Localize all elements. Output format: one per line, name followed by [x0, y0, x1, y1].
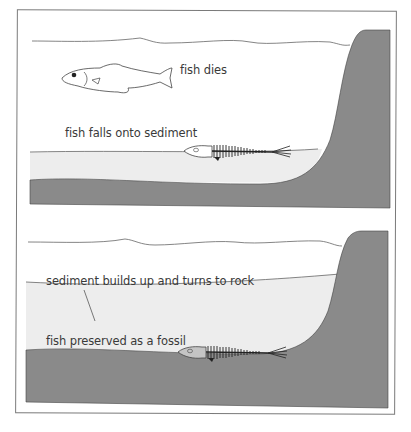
water-surface: [28, 239, 342, 246]
panel-1-illustration: [0, 0, 411, 216]
label-fish-dies: fish dies: [180, 63, 227, 77]
label-fish-falls: fish falls onto sediment: [65, 126, 197, 140]
label-sediment-builds: sediment builds up and turns to rock: [46, 274, 254, 288]
label-fish-preserved: fish preserved as a fossil: [46, 334, 186, 348]
panel-2-illustration: [0, 216, 411, 432]
fish-alive-icon: [62, 64, 172, 93]
water-surface: [32, 38, 350, 45]
panel-fish-preserved: sediment builds up and turns to rock fis…: [0, 216, 411, 432]
panel-fish-dies: fish dies fish falls onto sediment: [0, 0, 411, 216]
